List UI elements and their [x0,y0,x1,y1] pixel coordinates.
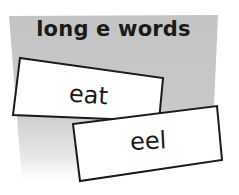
word-card-eat[interactable]: eat [68,80,109,111]
word-card-eel[interactable]: eel [129,126,167,156]
word-sort-illustration: long e words eat eel [0,0,239,195]
word-cards-graphic [0,0,239,195]
